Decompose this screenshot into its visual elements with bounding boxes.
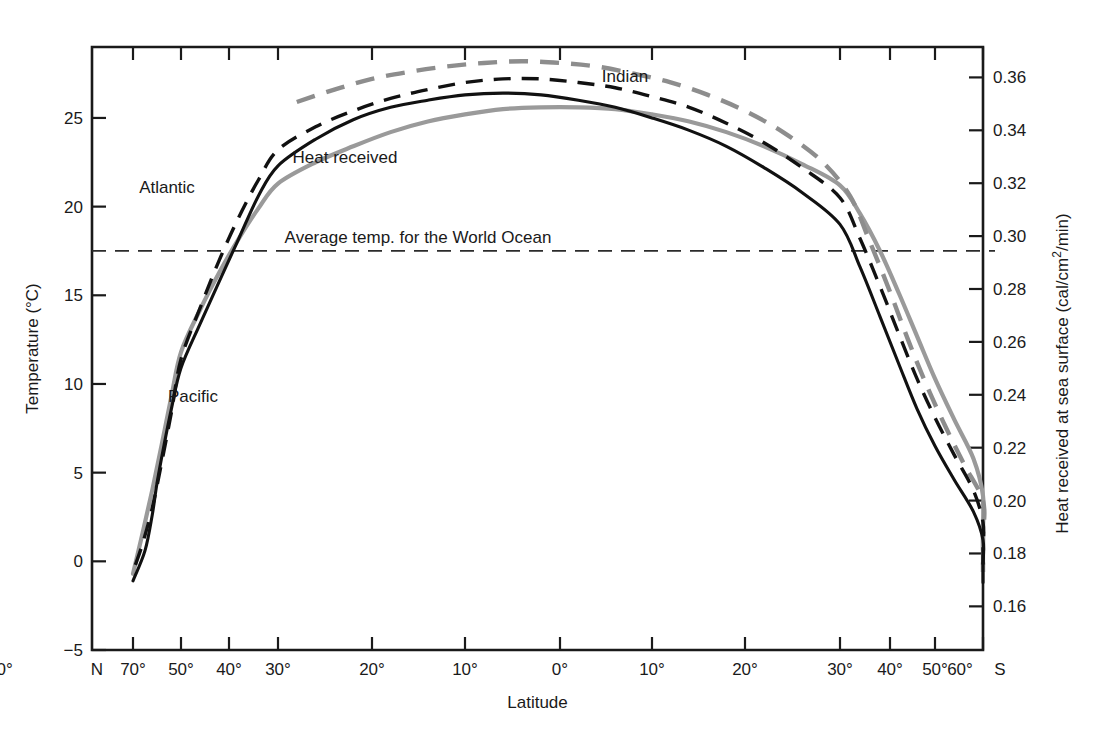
axis-frame [92,47,983,650]
y2-tick-label: 0.26 [993,333,1026,352]
annotation-heat: Heat received [293,148,398,167]
x-tick-label: 20° [732,660,758,679]
chart-canvas: 70°50°40°30°20°10°0°10°20°30°40°50°60°70… [0,0,1094,739]
y2-tick-label: 0.36 [993,68,1026,87]
x-tick-label: 30° [265,660,291,679]
y2-tick-label: 0.28 [993,280,1026,299]
y2-tick-label: 0.18 [993,544,1026,563]
plot-frame [92,47,983,650]
y-tick-label: 10 [64,375,83,394]
y2-tick-label: 0.32 [993,174,1026,193]
y2-tick-label: 0.24 [993,386,1026,405]
y-tick-label: 5 [74,464,83,483]
figure-chart-ocean-temperature-vs-latitude: 70°50°40°30°20°10°0°10°20°30°40°50°60°70… [0,0,1094,739]
series-line-heat-received [133,107,984,574]
y-axis-title-right: Heat received at sea surface (cal/cm2/mi… [1050,213,1072,533]
y-tick-label: 25 [64,109,83,128]
x-tick-label: 50° [922,660,948,679]
x-hemisphere-north: N [91,660,103,679]
y2-tick-label: 0.20 [993,492,1026,511]
x-tick-label: 70° [120,660,146,679]
y-tick-label: 15 [64,286,83,305]
x-axis: 70°50°40°30°20°10°0°10°20°30°40°50°60°70… [0,47,1006,712]
x-axis-title: Latitude [507,693,568,712]
annotation-atlantic: Atlantic [139,178,195,197]
x-tick-label: 40° [877,660,903,679]
x-tick-label: 0° [552,660,568,679]
series-line-atlantic [133,93,984,583]
y-axis-left: −50510152025Temperature (°C) [23,109,106,660]
series-line-pacific [135,78,983,570]
x-tick-label: 40° [216,660,242,679]
y2-title-pre: Heat received at sea surface (cal/cm [1053,258,1072,534]
x-tick-label: 20° [359,660,385,679]
x-hemisphere-south: S [994,660,1005,679]
x-tick-label: 50° [168,660,194,679]
x-tick-label: 30° [827,660,853,679]
y-tick-label: −5 [64,641,83,660]
y-axis-title-left: Temperature (°C) [23,283,42,414]
chart-annotations: IndianHeat receivedAtlanticAverage temp.… [139,67,648,406]
y-tick-label: 20 [64,198,83,217]
y2-tick-label: 0.34 [993,121,1026,140]
annotation-indian: Indian [602,67,648,86]
y2-title-post: /min) [1053,213,1072,251]
x-tick-label: 10° [639,660,665,679]
y2-tick-label: 0.30 [993,227,1026,246]
y2-tick-label: 0.22 [993,439,1026,458]
annotation-pacific: Pacific [168,387,219,406]
x-tick-label: 60° [947,660,973,679]
y2-tick-label: 0.16 [993,597,1026,616]
x-tick-label: 70° [0,660,13,679]
x-tick-label: 10° [452,660,478,679]
y-tick-label: 0 [74,552,83,571]
annotation-average: Average temp. for the World Ocean [285,228,552,247]
